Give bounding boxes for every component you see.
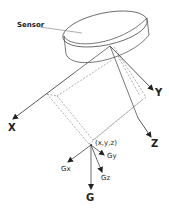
gz-label: Gz — [101, 175, 110, 182]
sensor-leader-line — [40, 27, 82, 33]
sensor-cylinder-icon — [60, 4, 151, 62]
x-axis-label: X — [8, 123, 16, 133]
z-axis-arrow — [138, 118, 151, 137]
sensor-label: Sensor — [17, 22, 44, 29]
diagram-drawing — [0, 0, 169, 213]
point-marker — [90, 144, 92, 146]
x-axis-arrow — [13, 73, 74, 119]
y-axis-arrow — [110, 46, 153, 90]
gx-label: Gx — [61, 166, 71, 173]
gy-label: Gy — [107, 153, 117, 160]
gravity-vectors — [68, 145, 104, 189]
body-frame — [74, 46, 138, 118]
y-axis-label: Y — [155, 88, 162, 98]
sensor-axes-diagram: Sensor X Y Z (x,y,z) Gx Gy Gz G — [0, 0, 169, 213]
point-label: (x,y,z) — [95, 140, 117, 147]
z-axis-label: Z — [151, 139, 158, 149]
gx-arrow — [68, 145, 91, 162]
g-label: G — [86, 193, 94, 203]
